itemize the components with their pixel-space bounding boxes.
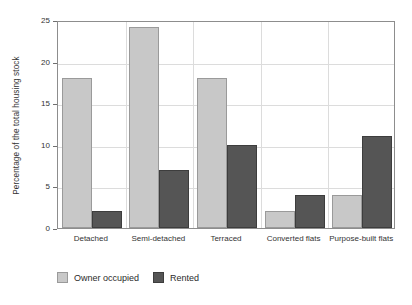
x-axis-label: Converted flats: [260, 234, 328, 243]
bar-rented: [295, 195, 325, 228]
plot-area: [57, 21, 395, 229]
y-axis-title: Percentage of the total housing stock: [8, 21, 24, 229]
y-axis-tick-mark: [53, 229, 57, 230]
y-axis-tick-label: 25: [28, 16, 50, 25]
gridline-vertical: [126, 22, 127, 228]
bar-owner-occupied: [197, 78, 227, 228]
x-axis-label: Detached: [57, 234, 125, 243]
bar-owner-occupied: [265, 211, 295, 228]
y-axis-tick-label: 15: [28, 99, 50, 108]
x-axis-label: Semi-detached: [125, 234, 193, 243]
x-axis-label: Purpose-built flats: [327, 234, 395, 243]
chart-legend: Owner occupiedRented: [57, 272, 199, 283]
legend-entry-owner-occupied[interactable]: Owner occupied: [57, 272, 139, 283]
bar-rented: [362, 136, 392, 228]
bar-rented: [92, 211, 122, 228]
y-axis-tick-label: 0: [28, 224, 50, 233]
y-axis-tick-label: 10: [28, 141, 50, 150]
legend-swatch-icon: [153, 272, 164, 283]
bar-owner-occupied: [62, 78, 92, 228]
bar-chart: Percentage of the total housing stock 05…: [0, 0, 412, 305]
y-axis-tick-label: 5: [28, 182, 50, 191]
gridline-vertical: [261, 22, 262, 228]
gridline-horizontal: [58, 64, 394, 65]
gridline-vertical: [328, 22, 329, 228]
bar-owner-occupied: [129, 27, 159, 228]
bar-rented: [227, 145, 257, 228]
x-axis-label: Terraced: [192, 234, 260, 243]
y-axis-tick-label: 20: [28, 58, 50, 67]
legend-label: Owner occupied: [74, 273, 139, 283]
bar-owner-occupied: [332, 195, 362, 228]
gridline-vertical: [193, 22, 194, 228]
bar-rented: [159, 170, 189, 228]
legend-label: Rented: [170, 273, 199, 283]
legend-entry-rented[interactable]: Rented: [153, 272, 199, 283]
legend-swatch-icon: [57, 272, 68, 283]
y-axis-title-text: Percentage of the total housing stock: [12, 56, 21, 194]
